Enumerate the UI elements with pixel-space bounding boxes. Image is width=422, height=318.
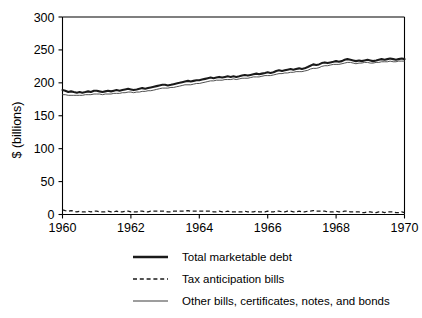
legend-label-tax-anticipation-bills: Tax anticipation bills xyxy=(182,273,285,285)
y-axis-title: $ (billions) xyxy=(10,102,24,159)
x-tick-label: 1970 xyxy=(391,221,419,235)
y-tick-label: 150 xyxy=(34,109,55,123)
y-tick-label: 100 xyxy=(34,142,55,156)
chart-figure: $ (billions) 050100150200250300 19601962… xyxy=(0,0,422,318)
chart-background xyxy=(0,0,422,318)
x-tick-label: 1962 xyxy=(117,221,145,235)
y-tick-label: 300 xyxy=(34,11,55,25)
x-tick-label: 1960 xyxy=(49,221,77,235)
y-tick-label: 50 xyxy=(41,175,55,189)
legend-label-total-marketable-debt: Total marketable debt xyxy=(182,251,293,263)
x-tick-label: 1966 xyxy=(254,221,282,235)
y-tick-label: 250 xyxy=(34,43,55,57)
x-tick-label: 1968 xyxy=(322,221,350,235)
legend-label-other-bills: Other bills, certificates, notes, and bo… xyxy=(182,295,390,307)
y-tick-label: 200 xyxy=(34,76,55,90)
x-tick-label: 1964 xyxy=(185,221,213,235)
line-chart: $ (billions) 050100150200250300 19601962… xyxy=(0,0,422,318)
